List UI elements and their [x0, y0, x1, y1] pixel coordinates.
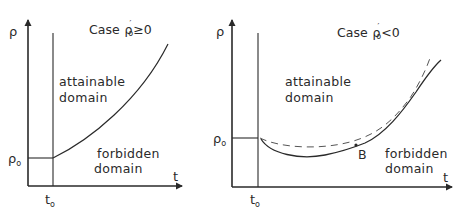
right-case-label: Caseρ′o<0 — [337, 23, 400, 41]
right-point-b-label: B — [358, 147, 367, 162]
left-attainable-label-2: domain — [59, 90, 108, 105]
right-forbidden-label-2: domain — [385, 161, 434, 176]
right-t0-label: to — [250, 192, 260, 209]
right-x-axis-label: t — [443, 170, 448, 185]
right-y-axis-label: ρ — [216, 24, 224, 39]
diagram-canvas: ρ t ρo to Caseρ′o≥0 attainable domain fo… — [0, 0, 466, 216]
right-attainable-label: attainable — [285, 74, 351, 89]
right-rho0-label: ρo — [213, 131, 226, 148]
left-case-label: Caseρ′o≥0 — [89, 20, 152, 38]
left-rho0-label: ρo — [8, 151, 21, 168]
right-panel: ρ t ρo to Caseρ′o<0 B attainable domain … — [213, 20, 452, 209]
left-panel: ρ t ρo to Caseρ′o≥0 attainable domain fo… — [8, 20, 182, 209]
left-forbidden-label: forbidden — [97, 146, 160, 161]
right-attainable-label-2: domain — [285, 90, 334, 105]
left-x-axis-label: t — [173, 169, 178, 184]
left-forbidden-label-2: domain — [94, 161, 143, 176]
right-forbidden-label: forbidden — [385, 146, 448, 161]
left-attainable-label: attainable — [59, 74, 125, 89]
left-t0-label: to — [45, 192, 55, 209]
left-y-axis-label: ρ — [9, 24, 17, 39]
